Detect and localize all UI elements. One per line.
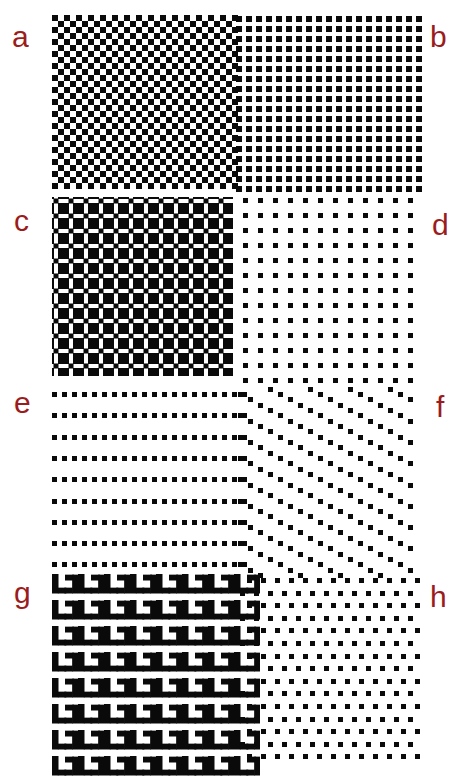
intersection-dot — [84, 274, 89, 279]
oblique-dot — [308, 451, 313, 456]
grid-dot — [378, 303, 383, 308]
grid-dot — [286, 176, 292, 182]
grid-dot — [416, 46, 422, 52]
grid-dot — [348, 348, 353, 353]
oblique-dot — [358, 392, 363, 397]
grid-dot — [348, 258, 353, 263]
lattice-dot — [401, 729, 406, 734]
grid-dot — [316, 36, 322, 42]
grid-dot — [378, 318, 383, 323]
checker-cell — [124, 87, 130, 93]
l-shape — [182, 730, 189, 750]
grid-dot — [408, 273, 413, 278]
lattice-dot — [373, 679, 378, 684]
intersection-dot — [114, 244, 119, 249]
row-dot — [62, 392, 67, 397]
row-dot — [222, 562, 227, 567]
checker-cell — [88, 135, 94, 141]
oblique-dot — [258, 530, 263, 535]
grid-dot — [306, 86, 312, 92]
grid-dot — [236, 26, 242, 32]
oblique-dot — [358, 456, 363, 461]
grid-dot — [236, 66, 242, 72]
row-dot — [132, 456, 137, 461]
checker-cell — [136, 147, 142, 153]
lattice-dot — [261, 578, 266, 583]
checker-cell — [136, 159, 142, 165]
checker-cell — [100, 171, 106, 177]
grid-dot — [406, 106, 412, 112]
grid-dot — [316, 76, 322, 82]
grid-dot — [416, 176, 422, 182]
grid-dot — [333, 378, 338, 383]
checker-cell — [70, 33, 76, 39]
intersection-dot — [84, 304, 89, 309]
grid-dot — [258, 378, 263, 383]
grid-dot — [286, 166, 292, 172]
checker-cell — [82, 57, 88, 63]
grid-dot — [258, 333, 263, 338]
grid-dot — [386, 16, 392, 22]
row-dot — [132, 477, 137, 482]
grid-dot — [256, 96, 262, 102]
grid-dot — [246, 116, 252, 122]
j-shape — [168, 588, 176, 594]
checker-cell — [202, 165, 208, 171]
checker-cell — [112, 87, 118, 93]
j-shape — [150, 601, 156, 620]
row-dot — [172, 435, 177, 440]
oblique-dot — [238, 456, 243, 461]
grid-dot — [393, 243, 398, 248]
grid-dot — [393, 288, 398, 293]
intersection-dot — [189, 214, 194, 219]
j-shape — [194, 770, 202, 776]
checker-cell — [94, 21, 100, 27]
l-shape — [156, 574, 163, 594]
checker-cell — [196, 99, 202, 105]
l-shape — [130, 652, 137, 672]
intersection-dot — [159, 289, 164, 294]
checker-cell — [142, 177, 148, 183]
l-shape — [208, 652, 215, 672]
lattice-dot — [240, 666, 245, 671]
checker-cell — [142, 45, 148, 51]
row-dot — [92, 541, 97, 546]
checker-cell — [202, 57, 208, 63]
lattice-dot — [261, 729, 266, 734]
grid-dot — [406, 156, 412, 162]
grid-dot — [366, 146, 372, 152]
checker-cell — [88, 171, 94, 177]
row-dot — [62, 477, 67, 482]
grid-dot — [258, 273, 263, 278]
j-shape — [72, 731, 78, 750]
row-dot — [82, 562, 87, 567]
row-dot — [172, 499, 177, 504]
grid-dot — [273, 303, 278, 308]
checker-cell — [202, 129, 208, 135]
intersection-dot — [144, 334, 149, 339]
row-dot — [182, 392, 187, 397]
checker-cell — [94, 105, 100, 111]
l-shape — [78, 730, 85, 750]
row-dot — [82, 413, 87, 418]
grid-dot — [346, 166, 352, 172]
row-dot — [122, 435, 127, 440]
checker-cell — [82, 141, 88, 147]
checker-cell — [94, 129, 100, 135]
j-shape — [194, 588, 202, 594]
l-shape — [234, 704, 241, 724]
intersection-dot — [69, 349, 74, 354]
l-shape — [130, 678, 137, 698]
grid-dot — [288, 303, 293, 308]
lattice-dot — [317, 754, 322, 759]
checker-cell — [76, 27, 82, 33]
checker-cell — [64, 63, 70, 69]
l-shape — [234, 626, 241, 646]
intersection-dot — [69, 199, 74, 204]
checker-cell — [88, 183, 94, 189]
lattice-dot — [338, 717, 343, 722]
j-shape — [220, 692, 228, 698]
grid-dot — [416, 66, 422, 72]
checker-cell — [220, 159, 226, 165]
grid-dot — [416, 126, 422, 132]
